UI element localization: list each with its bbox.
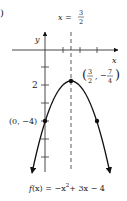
symmetry-label: x = 3 2	[58, 9, 84, 26]
svg-text:x =: x =	[58, 13, 72, 22]
svg-text:2: 2	[79, 18, 83, 26]
panel-label: )	[0, 7, 4, 18]
svg-text:,: ,	[95, 72, 98, 81]
vertex-label: ( 3 2 , − 7 4 )	[82, 67, 120, 85]
svg-text:f(x) = −x2+ 3x − 4: f(x) = −x2+ 3x − 4	[28, 182, 105, 193]
svg-text:−: −	[100, 71, 107, 80]
y-tick-label-2: 2	[32, 80, 38, 90]
svg-text:(: (	[82, 67, 87, 82]
x-axis-label: x	[112, 56, 117, 65]
svg-text:): )	[115, 67, 120, 82]
svg-text:4: 4	[108, 77, 112, 85]
y-intercept-label: (0, −4)	[9, 117, 37, 126]
point-vertex	[69, 79, 73, 83]
function-label: f(x) = −x2+ 3x − 4	[28, 182, 105, 193]
svg-text:3: 3	[88, 68, 92, 76]
y-axis-label: y	[34, 35, 40, 44]
point-y-intercept	[43, 119, 47, 123]
point-symmetric	[95, 119, 99, 123]
svg-text:3: 3	[79, 9, 83, 17]
svg-text:2: 2	[88, 77, 92, 85]
parabola-chart: ) x y 2 x = 3 2 (0, −4) ( 3 2 ,	[0, 0, 127, 201]
svg-text:7: 7	[108, 68, 112, 76]
